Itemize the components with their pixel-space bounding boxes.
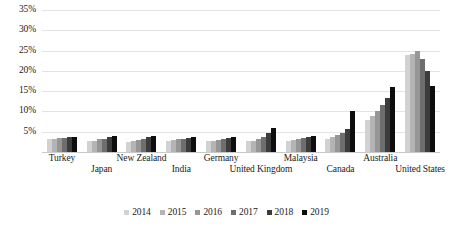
legend-swatch-icon (302, 210, 307, 215)
bar-group (360, 10, 400, 152)
bar-group (42, 10, 82, 152)
x-axis-label: Germany (187, 153, 255, 164)
legend-item[interactable]: 2018 (267, 208, 294, 218)
bar-group (82, 10, 122, 152)
y-axis-tick-label: 35% (19, 5, 36, 15)
bar (350, 111, 355, 152)
bar (151, 136, 156, 152)
legend-item[interactable]: 2017 (231, 208, 258, 218)
bar (430, 86, 435, 152)
y-axis-tick-label: 20% (19, 66, 36, 76)
legend-swatch-icon (124, 210, 129, 215)
legend-label: 2017 (239, 208, 258, 218)
x-axis-label: India (147, 164, 215, 175)
y-axis-tick-label: 10% (19, 107, 36, 117)
y-axis-tick-label: 30% (19, 26, 36, 36)
x-axis-category-labels: TurkeyJapanNew ZealandIndiaGermanyUnited… (42, 152, 440, 198)
x-axis-label: Canada (307, 164, 375, 175)
bar-group (241, 10, 281, 152)
x-axis-label: Australia (346, 153, 414, 164)
legend-swatch-icon (231, 210, 236, 215)
bar-group (321, 10, 361, 152)
legend-swatch-icon (267, 210, 272, 215)
legend-label: 2018 (275, 208, 294, 218)
y-axis-tick-label: 25% (19, 46, 36, 56)
legend-label: 2019 (310, 208, 329, 218)
chart-legend: 201420152016201720182019 (0, 208, 453, 218)
legend-label: 2015 (168, 208, 187, 218)
x-axis-label: Japan (68, 164, 136, 175)
x-axis-label: United States (386, 164, 453, 175)
x-axis-label: Malaysia (267, 153, 335, 164)
legend-label: 2014 (132, 208, 151, 218)
grouped-bar-chart: 5%10%15%20%25%30%35% TurkeyJapanNew Zeal… (0, 0, 453, 237)
bar (191, 137, 196, 152)
x-axis-label: New Zealand (108, 153, 176, 164)
bars-layer (42, 10, 440, 152)
legend-item[interactable]: 2019 (302, 208, 329, 218)
bar (112, 136, 117, 152)
bar-group (122, 10, 162, 152)
legend-item[interactable]: 2016 (195, 208, 222, 218)
bar (72, 137, 77, 152)
y-axis-tick-label: 15% (19, 86, 36, 96)
legend-label: 2016 (203, 208, 222, 218)
y-axis: 5%10%15%20%25%30%35% (0, 0, 40, 152)
x-axis-label: United Kingdom (227, 164, 295, 175)
bar (311, 136, 316, 152)
bar-group (161, 10, 201, 152)
bar-group (201, 10, 241, 152)
bar-group (400, 10, 440, 152)
y-axis-tick-label: 5% (24, 127, 36, 137)
legend-swatch-icon (160, 210, 165, 215)
legend-item[interactable]: 2014 (124, 208, 151, 218)
legend-item[interactable]: 2015 (160, 208, 187, 218)
bar (271, 128, 276, 152)
bar (390, 87, 395, 152)
legend-swatch-icon (195, 210, 200, 215)
bar (231, 137, 236, 152)
x-axis-label: Turkey (28, 153, 96, 164)
bar-group (281, 10, 321, 152)
